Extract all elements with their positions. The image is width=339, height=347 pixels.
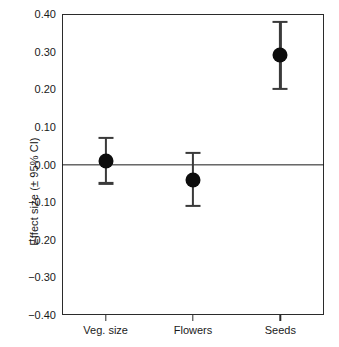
error-bar-cap-upper	[186, 152, 201, 154]
data-point-marker	[98, 153, 113, 168]
effect-size-chart: Effect size (± 95% CI) 0.400.300.200.100…	[0, 0, 339, 347]
y-tick-label: 0.30	[8, 46, 56, 58]
x-tick-label: Veg. size	[83, 324, 128, 336]
x-tick-label: Flowers	[174, 324, 213, 336]
y-tick-label: 0.00	[8, 159, 56, 171]
y-axis-title-text: Effect size (± 95% CI)	[28, 137, 40, 245]
data-point-marker	[273, 48, 288, 63]
y-tick-label: 0.40	[8, 8, 56, 20]
y-tick-label: −0.10	[8, 196, 56, 208]
error-bar-cap-lower	[186, 205, 201, 207]
x-tick-label: Seeds	[265, 324, 296, 336]
error-bar-cap-lower	[273, 88, 288, 90]
y-tick-label: −0.30	[8, 271, 56, 283]
x-tick-mark	[280, 315, 281, 321]
y-tick-label: −0.40	[8, 309, 56, 321]
error-bar-cap-upper	[273, 20, 288, 22]
x-tick-mark	[192, 315, 193, 321]
y-tick-label: 0.20	[8, 83, 56, 95]
x-tick-mark	[105, 315, 106, 321]
data-point-marker	[186, 172, 201, 187]
y-tick-label: −0.20	[8, 234, 56, 246]
error-bar-cap-upper	[98, 137, 113, 139]
error-bar-cap-lower	[98, 182, 113, 184]
y-tick-label: 0.10	[8, 121, 56, 133]
